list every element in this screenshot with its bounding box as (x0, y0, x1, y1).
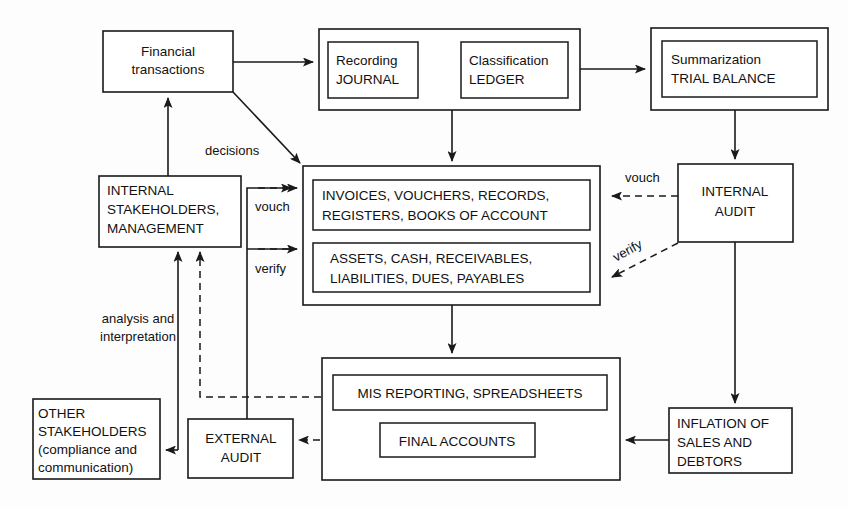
other-stakeholders-line-3: (compliance and (38, 442, 137, 457)
internal-stakeholders-line-1: INTERNAL (107, 183, 174, 198)
edge-label-vouch-right: vouch (625, 170, 660, 185)
external-audit-line-2: AUDIT (221, 450, 262, 465)
financial-transactions-line-2: transactions (132, 62, 205, 77)
internal-stakeholders-line-2: STAKEHOLDERS, (107, 202, 219, 217)
edge-label-verify-right: verify (610, 236, 645, 264)
node-external-audit[interactable] (188, 419, 293, 478)
edge-externalaudit-vouch (247, 188, 291, 419)
edge-label-decisions: decisions (205, 143, 260, 158)
invoices-records-line-2: REGISTERS, BOOKS OF ACCOUNT (322, 208, 548, 223)
flowchart-svg: Financial transactions Recording JOURNAL… (0, 0, 848, 508)
final-accounts-line-1: FINAL ACCOUNTS (399, 434, 516, 449)
financial-transactions-line-1: Financial (141, 44, 195, 59)
assets-liabilities-line-2: LIABILITIES, DUES, PAYABLES (330, 271, 524, 286)
assets-liabilities-line-1: ASSETS, CASH, RECEIVABLES, (330, 251, 532, 266)
summarization-line-2: TRIAL BALANCE (671, 71, 776, 86)
inflation-line-1: INFLATION OF (677, 416, 769, 431)
other-stakeholders-line-4: communication) (38, 460, 133, 475)
classification-ledger-line-1: Classification (469, 53, 549, 68)
other-stakeholders-line-2: STAKEHOLDERS (38, 424, 147, 439)
recording-journal-line-2: JOURNAL (336, 72, 400, 87)
mis-reporting-line-1: MIS REPORTING, SPREADSHEETS (358, 386, 583, 401)
recording-journal-line-1: Recording (336, 53, 398, 68)
edge-label-analysis-line-1: analysis and (102, 311, 174, 326)
node-summarization-trial-balance[interactable] (662, 41, 817, 97)
other-stakeholders-line-1: OTHER (38, 406, 86, 421)
node-internal-audit[interactable] (678, 164, 793, 242)
edge-label-vouch-left: vouch (255, 199, 290, 214)
internal-audit-line-1: INTERNAL (702, 184, 769, 199)
summarization-line-1: Summarization (671, 52, 761, 67)
node-recording-journal[interactable] (328, 42, 418, 98)
edge-label-verify-left: verify (255, 261, 287, 276)
node-classification-ledger[interactable] (461, 42, 568, 98)
diagram-canvas: Financial transactions Recording JOURNAL… (0, 0, 848, 508)
edge-label-analysis-line-2: interpretation (100, 329, 176, 344)
classification-ledger-line-2: LEDGER (469, 72, 525, 87)
inflation-line-3: DEBTORS (677, 454, 742, 469)
internal-stakeholders-line-3: MANAGEMENT (107, 221, 204, 236)
inflation-line-2: SALES AND (677, 435, 752, 450)
internal-audit-line-2: AUDIT (715, 204, 756, 219)
external-audit-line-1: EXTERNAL (205, 431, 277, 446)
invoices-records-line-1: INVOICES, VOUCHERS, RECORDS, (322, 188, 549, 203)
